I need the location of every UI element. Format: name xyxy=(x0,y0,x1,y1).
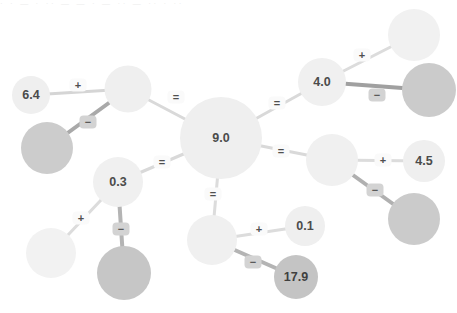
edge-operator-equals[interactable]: = xyxy=(205,188,222,201)
edge-operator-equals[interactable]: = xyxy=(269,97,286,110)
graph-node-blank[interactable] xyxy=(97,246,151,300)
edge-operator-minus[interactable]: − xyxy=(80,116,97,129)
graph-node-blank[interactable] xyxy=(402,63,456,117)
graph-node-blank[interactable] xyxy=(187,215,237,265)
graph-node-blank[interactable] xyxy=(388,9,440,61)
graph-node-labeled[interactable] xyxy=(93,157,143,207)
edge-operator-equals[interactable]: = xyxy=(154,156,171,169)
graph-canvas: · · — · ·· — — · — ·· — ·· · ·· 9.06.44.… xyxy=(0,0,457,313)
graph-node-labeled[interactable] xyxy=(274,255,318,299)
graph-node-blank[interactable] xyxy=(26,228,76,278)
graph-node-blank[interactable] xyxy=(306,134,358,186)
edge-operator-minus[interactable]: − xyxy=(367,184,384,197)
edge-operator-minus[interactable]: − xyxy=(369,89,386,102)
graph-node-blank[interactable] xyxy=(388,193,440,245)
edge-operator-plus[interactable]: + xyxy=(375,154,392,167)
graph-node-labeled[interactable] xyxy=(180,97,262,179)
graph-node-labeled[interactable] xyxy=(298,58,346,106)
edge-operator-plus[interactable]: + xyxy=(70,79,87,92)
graph-node-labeled[interactable] xyxy=(285,206,325,246)
edge-operator-minus[interactable]: − xyxy=(245,256,262,269)
edge-operator-equals[interactable]: = xyxy=(168,91,185,104)
edge-operator-plus[interactable]: + xyxy=(251,223,268,236)
edge-operator-minus[interactable]: − xyxy=(113,223,130,236)
edge-operator-equals[interactable]: = xyxy=(273,145,290,158)
graph-node-labeled[interactable] xyxy=(12,76,50,114)
graph-node-blank[interactable] xyxy=(105,66,152,113)
graph-node-labeled[interactable] xyxy=(403,140,445,182)
edge-operator-plus[interactable]: + xyxy=(354,49,371,62)
graph-node-blank[interactable] xyxy=(21,122,73,174)
edge-operator-plus[interactable]: + xyxy=(73,212,90,225)
